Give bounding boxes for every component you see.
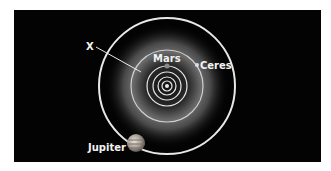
label-mars: Mars <box>153 53 181 64</box>
label-x: X <box>86 41 94 52</box>
jupiter-planet <box>127 134 145 152</box>
sun <box>165 84 169 88</box>
mars-planet <box>165 64 170 69</box>
label-ceres: Ceres <box>200 60 232 71</box>
ceres-dot <box>195 63 199 67</box>
solar-system-diagram: X Mars Ceres Jupiter <box>0 0 331 171</box>
label-jupiter: Jupiter <box>87 142 126 153</box>
